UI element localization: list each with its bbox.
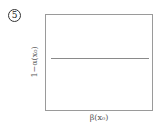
horizontal-series-line [51, 58, 149, 59]
y-axis-label: 1−α(x₀) [30, 46, 39, 77]
plot-area [45, 14, 153, 111]
x-axis-label: β(x₀) [90, 113, 109, 122]
panel-number-badge: 5 [8, 9, 21, 22]
